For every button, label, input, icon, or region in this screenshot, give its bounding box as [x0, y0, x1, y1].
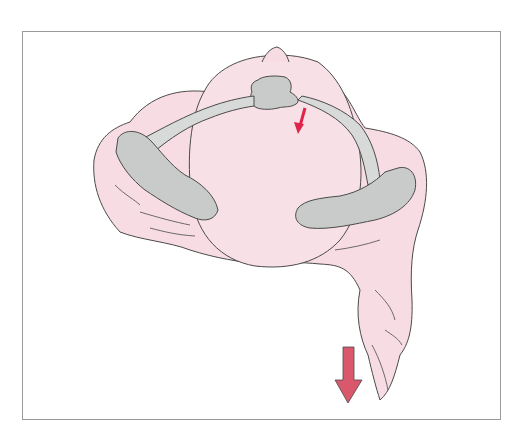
anatomical-illustration	[0, 0, 527, 440]
fetal-head-tip	[262, 47, 289, 62]
large-arrow-icon	[335, 347, 362, 403]
